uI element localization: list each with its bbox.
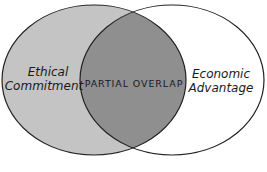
economic-label-line2: Advantage <box>188 81 254 95</box>
intersection-label: PARTIAL OVERLAP <box>85 78 184 89</box>
economic-label-line1: Economic <box>192 67 250 81</box>
venn-diagram: Ethical Commitment PARTIAL OVERLAP Econo… <box>0 0 267 172</box>
ethical-label-line2: Commitment <box>5 79 85 93</box>
ethical-label-line1: Ethical <box>28 65 69 79</box>
